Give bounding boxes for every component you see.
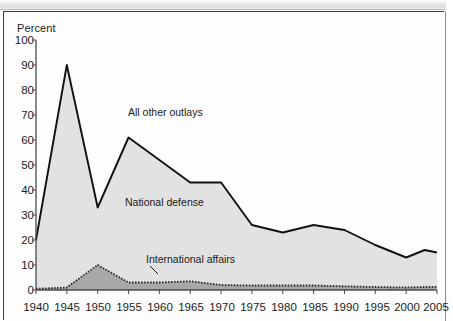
annotation-national-defense: National defense: [125, 196, 204, 208]
annotation-international-affairs: International affairs: [146, 253, 235, 265]
annotation-all-other-outlays: All other outlays: [128, 106, 203, 118]
area-all-other-outlays: [36, 65, 437, 290]
